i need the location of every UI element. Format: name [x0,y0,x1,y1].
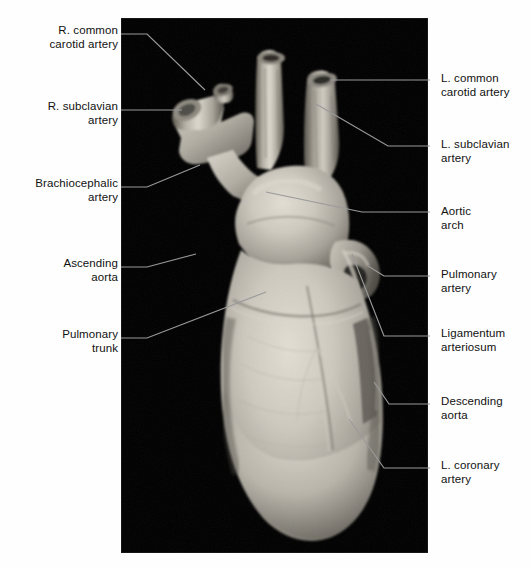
label-pulmonary-trunk: Pulmonary trunk [10,328,118,355]
label-l-common-carotid-artery: L. common carotid artery [441,72,531,99]
label-r-subclavian-artery: R. subclavian artery [10,100,118,127]
label-r-common-carotid-artery: R. common carotid artery [10,24,118,51]
anatomy-figure: R. common carotid artery R. subclavian a… [0,0,531,568]
label-ligamentum-arteriosum: Ligamentum arteriosum [441,327,531,354]
label-pulmonary-artery: Pulmonary artery [441,268,531,295]
specimen-photograph-plate [121,18,428,553]
label-aortic-arch: Aortic arch [441,205,531,232]
label-descending-aorta: Descending aorta [441,395,531,422]
label-brachiocephalic-artery: Brachiocephalic artery [6,177,118,204]
heart-specimen-image [121,18,428,553]
label-ascending-aorta: Ascending aorta [10,257,118,284]
label-l-coronary-artery: L. coronary artery [441,459,531,486]
label-l-subclavian-artery: L. subclavian artery [441,138,531,165]
